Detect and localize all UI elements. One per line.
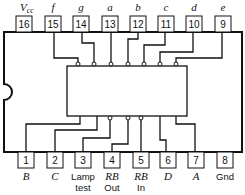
pin-number: 9 xyxy=(220,19,226,30)
pin-4: 4 RB Out xyxy=(104,152,120,193)
pin-number: 12 xyxy=(132,19,144,30)
pin-number: 1 xyxy=(23,155,29,166)
pin-label: A xyxy=(192,170,200,182)
pin-number: 14 xyxy=(75,19,87,30)
ic-pinout-diagram: 16 Vcc 15 f 14 g 13 a 12 b 11 c xyxy=(0,0,245,195)
pin-9: 9 e xyxy=(215,1,231,32)
pin-number: 10 xyxy=(188,19,200,30)
top-traces xyxy=(54,32,222,63)
pin-label: D xyxy=(163,170,172,182)
pin-7: 7 A xyxy=(188,152,204,182)
pin-6: 6 D xyxy=(160,152,176,182)
pin-number: 16 xyxy=(18,19,30,30)
pin-number: 6 xyxy=(165,155,171,166)
pin-label: f xyxy=(51,1,56,13)
pin-number: 13 xyxy=(104,19,116,30)
pin-5: 5 RB In xyxy=(133,152,149,193)
pin-label: a xyxy=(107,1,113,13)
pin-label: Gnd xyxy=(216,171,234,182)
pin-number: 15 xyxy=(47,19,59,30)
pin-label: c xyxy=(164,1,169,13)
pin-label: e xyxy=(221,1,226,13)
pin-number: 8 xyxy=(222,155,228,166)
decoder-chip-body xyxy=(67,66,187,116)
pin-label: RB xyxy=(104,170,119,182)
pin-13: 13 a xyxy=(102,1,118,32)
pin-15: 15 f xyxy=(45,1,61,32)
pin-label: Vcc xyxy=(20,1,34,15)
ic-package-outline xyxy=(4,32,242,152)
pin-label: g xyxy=(78,1,84,13)
pin-8: 8 Gnd xyxy=(216,152,234,182)
pin-label-line2: In xyxy=(137,182,145,193)
pin-label: B xyxy=(23,170,30,182)
pin-number: 4 xyxy=(109,155,115,166)
pin-12: 12 b xyxy=(130,1,146,32)
pin-10: 10 d xyxy=(186,1,202,32)
pin-label: b xyxy=(135,1,141,13)
pin-3: 3 Lamp test xyxy=(71,152,95,193)
bottom-traces xyxy=(26,116,195,152)
pin-11: 11 c xyxy=(158,1,174,32)
pin-16: 16 Vcc xyxy=(16,1,34,32)
pin-label-line2: test xyxy=(75,182,91,193)
pin-label: d xyxy=(191,1,197,13)
bottom-pin-row: 1 B 2 C 3 Lamp test 4 RB Out 5 RB In xyxy=(18,152,234,193)
pin-14: 14 g xyxy=(73,1,89,32)
pin-label: RB xyxy=(133,170,148,182)
pin-number: 5 xyxy=(138,155,144,166)
pin-label: C xyxy=(51,170,59,182)
top-pin-row: 16 Vcc 15 f 14 g 13 a 12 b 11 c xyxy=(16,1,231,32)
pin-number: 11 xyxy=(161,19,172,30)
pin-2: 2 C xyxy=(47,152,63,182)
pin-label-line2: Out xyxy=(104,182,120,193)
pin-number: 7 xyxy=(193,155,199,166)
pin-number: 2 xyxy=(52,155,58,166)
pin-1: 1 B xyxy=(18,152,34,182)
pin-number: 3 xyxy=(80,155,86,166)
pin-label: Lamp xyxy=(71,171,95,182)
